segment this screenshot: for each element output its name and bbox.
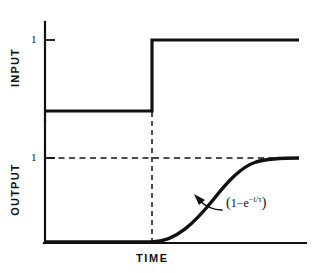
- step-response-figure: INPUT OUTPUT TIME 1 1 (1−e−t/τ): [0, 0, 318, 273]
- formula-close-paren: ): [262, 195, 267, 210]
- input-axis-title: INPUT: [10, 44, 21, 92]
- curve-formula-annotation: (1−e−t/τ): [226, 196, 266, 210]
- input-tick-label-1: 1: [31, 34, 37, 45]
- plot-canvas: [0, 0, 318, 273]
- time-axis-title: TIME: [136, 253, 169, 264]
- output-tick-label-1: 1: [31, 152, 37, 163]
- output-axis-title: OUTPUT: [10, 161, 21, 219]
- input-step-waveform: [45, 40, 299, 111]
- formula-exponent: −t/τ: [249, 195, 262, 204]
